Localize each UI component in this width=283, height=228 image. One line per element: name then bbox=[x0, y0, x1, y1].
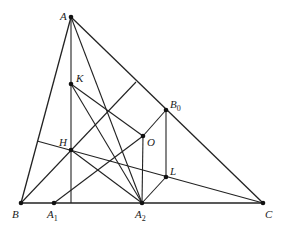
label-c: C bbox=[265, 208, 273, 220]
segment-l-a2 bbox=[142, 177, 166, 203]
line-segments bbox=[21, 17, 263, 203]
segment-k-a2 bbox=[71, 84, 142, 203]
label-a: A bbox=[59, 10, 67, 22]
label-a2: A2 bbox=[134, 208, 146, 223]
label-a1: A1 bbox=[46, 208, 58, 223]
point-o bbox=[141, 134, 146, 139]
point-h bbox=[69, 148, 74, 153]
label-b0: B0 bbox=[170, 98, 181, 113]
segment-o-a2 bbox=[142, 136, 143, 203]
segment-k-o bbox=[71, 84, 143, 136]
label-o: O bbox=[147, 136, 155, 148]
label-h: H bbox=[58, 136, 68, 148]
point-c bbox=[261, 201, 266, 206]
point-a1 bbox=[52, 201, 57, 206]
segment-a-b bbox=[21, 17, 71, 203]
label-l: L bbox=[169, 165, 176, 177]
point-a bbox=[69, 15, 74, 20]
segment-o-b0 bbox=[143, 110, 166, 136]
label-k: K bbox=[75, 72, 84, 84]
point-a2 bbox=[140, 201, 145, 206]
geometry-diagram: ABCKHOB0LA1A2 bbox=[0, 0, 283, 228]
point-l bbox=[164, 175, 169, 180]
point-b0 bbox=[164, 108, 169, 113]
point-b bbox=[19, 201, 24, 206]
label-b: B bbox=[12, 208, 19, 220]
point-k bbox=[69, 82, 74, 87]
